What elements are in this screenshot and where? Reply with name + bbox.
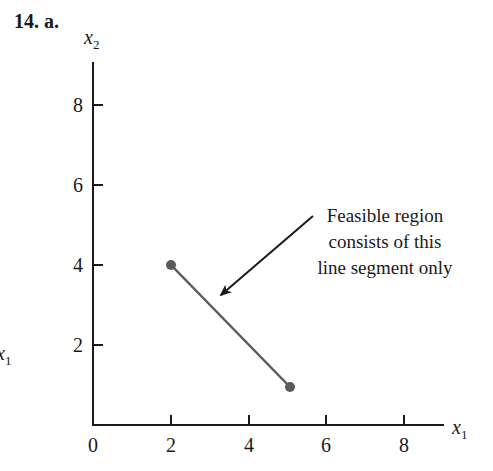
- x-axis-label: x1: [451, 416, 467, 442]
- y-tick-label-8: 8: [73, 94, 83, 116]
- x-ticks: [171, 415, 404, 425]
- y-tick-label-4: 4: [73, 254, 83, 276]
- feasible-line-segment: [171, 265, 290, 387]
- endpoint-marker-5-1: [285, 382, 295, 392]
- x-tick-label-2: 2: [166, 434, 176, 456]
- annotation-arrow: [221, 216, 313, 295]
- annotation-line-3: line segment only: [317, 257, 453, 278]
- annotation-line-2: consists of this: [329, 231, 442, 252]
- x-tick-label-6: 6: [321, 434, 331, 456]
- x-tick-label-8: 8: [399, 434, 409, 456]
- feasible-region-chart: 8 6 4 2 0 2 4 6 8 x2 x1 Feasible region …: [0, 0, 493, 471]
- y-axis-label: x2: [83, 26, 99, 52]
- x-tick-label-0: 0: [88, 434, 98, 456]
- y-tick-label-6: 6: [73, 174, 83, 196]
- endpoint-marker-2-4: [166, 260, 176, 270]
- x-tick-label-4: 4: [244, 434, 254, 456]
- annotation-line-1: Feasible region: [327, 205, 444, 226]
- y-ticks: [93, 105, 103, 345]
- y-tick-label-2: 2: [73, 334, 83, 356]
